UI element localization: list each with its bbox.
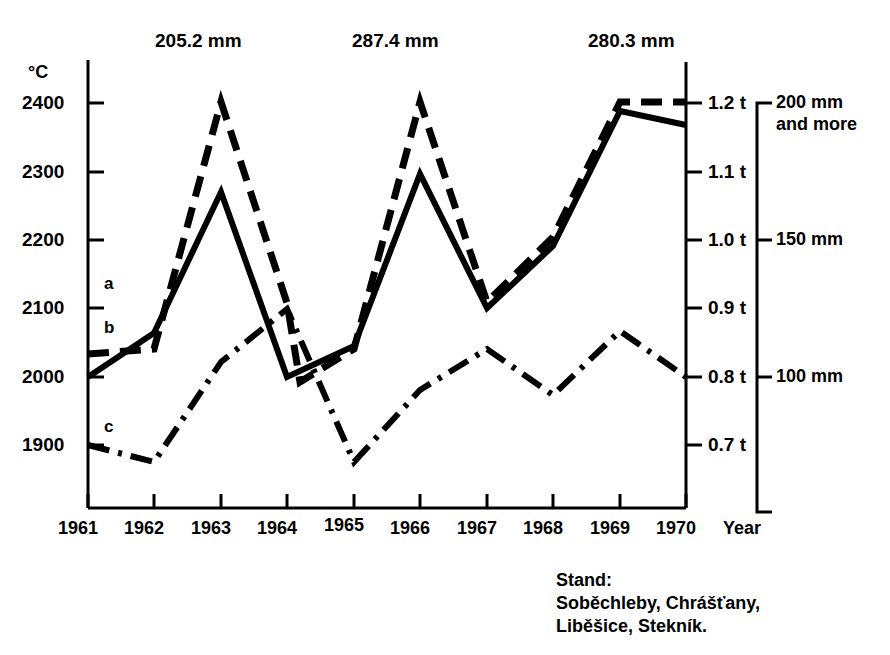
- tonnage-tick-0-9: 0.9 t: [708, 297, 746, 319]
- precip-label-100mm: 100 mm: [776, 366, 843, 387]
- precip-label-and-more: and more: [776, 114, 857, 135]
- y-tick-2000: 2000: [22, 366, 64, 388]
- x-tick-1969: 1969: [590, 518, 630, 539]
- annotation-1966-precip: 287.4 mm: [352, 30, 439, 52]
- x-tick-1965: 1965: [324, 515, 364, 536]
- x-tick-1966: 1966: [390, 518, 430, 539]
- y-tick-2300: 2300: [22, 161, 64, 183]
- y-tick-1900: 1900: [22, 434, 64, 456]
- caption-line-3: Liběšice, Stekník.: [556, 616, 707, 637]
- x-tick-1964: 1964: [257, 518, 297, 539]
- series-c-line: [88, 309, 686, 462]
- series-label-b: b: [104, 318, 114, 338]
- tonnage-tick-1-2: 1.2 t: [708, 92, 746, 114]
- tonnage-tick-1-1: 1.1 t: [708, 161, 746, 183]
- precip-label-200mm: 200 mm: [776, 92, 843, 113]
- series-label-c: c: [104, 417, 113, 437]
- tonnage-axis-ticks: [686, 103, 702, 445]
- x-axis-ticks: [88, 494, 686, 508]
- y-tick-2200: 2200: [22, 229, 64, 251]
- precipitation-axis: [757, 103, 772, 512]
- x-tick-1962: 1962: [124, 518, 164, 539]
- x-tick-1967: 1967: [457, 518, 497, 539]
- chart-canvas: °C 2400 2300 2200 2100 2000 1900 205.2 m…: [0, 0, 890, 655]
- caption-line-1: Stand:: [556, 570, 612, 591]
- x-tick-1961: 1961: [58, 518, 98, 539]
- annotation-1970-precip: 280.3 mm: [588, 30, 675, 52]
- x-tick-1968: 1968: [523, 518, 563, 539]
- x-tick-1963: 1963: [191, 518, 231, 539]
- chart-svg: [0, 0, 890, 655]
- annotation-1963-precip: 205.2 mm: [155, 30, 242, 52]
- y-tick-2100: 2100: [22, 297, 64, 319]
- series-label-a: a: [104, 274, 113, 294]
- y-tick-2400: 2400: [22, 92, 64, 114]
- tonnage-tick-0-7: 0.7 t: [708, 434, 746, 456]
- tonnage-tick-1-0: 1.0 t: [708, 229, 746, 251]
- precip-label-150mm: 150 mm: [776, 229, 843, 250]
- x-axis-title: Year: [723, 518, 761, 539]
- series-a-line: [88, 102, 686, 382]
- tonnage-tick-0-8: 0.8 t: [708, 366, 746, 388]
- caption-line-2: Soběchleby, Chrášťany,: [556, 593, 760, 614]
- x-tick-1970: 1970: [656, 518, 696, 539]
- y-axis-unit-label: °C: [28, 62, 48, 83]
- y-axis-ticks: [88, 103, 104, 445]
